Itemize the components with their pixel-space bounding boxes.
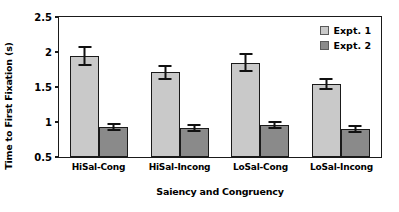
y-axis-title: Time to First Fixation (s) <box>0 0 16 212</box>
bar-slot <box>99 17 128 157</box>
error-bar-cap-bottom <box>268 127 281 129</box>
y-axis-tick: 0.5 <box>34 151 59 163</box>
bar-slot <box>260 17 289 157</box>
error-bar-cap-top <box>159 65 172 67</box>
legend-swatch-expt-1 <box>320 26 329 35</box>
error-bar-cap-top <box>78 46 91 48</box>
y-axis-tick-label: 1 <box>45 117 55 128</box>
bar-losal-cong-series-1[interactable] <box>231 63 260 158</box>
error-bar-cap-top <box>188 124 201 126</box>
y-axis-tick-label: 1.5 <box>34 82 55 93</box>
x-axis-tick-label: HiSal-Cong <box>58 162 139 172</box>
chart-legend: Expt. 1 Expt. 2 <box>320 25 372 51</box>
bar-hisal-incong-series-2[interactable] <box>180 128 209 157</box>
error-bar <box>107 123 120 131</box>
bar-group <box>220 17 301 157</box>
error-bar <box>268 121 281 129</box>
x-axis-tick-label: LoSal-Cong <box>220 162 301 172</box>
y-axis-tick: 1.5 <box>34 81 59 93</box>
y-axis-tick-label: 0.5 <box>34 152 55 163</box>
error-bar-cap-bottom <box>320 88 333 90</box>
bar-slot <box>231 17 260 157</box>
bar-slot <box>180 17 209 157</box>
y-axis-tick-label: 2 <box>45 47 55 58</box>
bar-slot <box>70 17 99 157</box>
legend-label-expt-2: Expt. 2 <box>334 40 372 51</box>
y-axis-tick: 2.5 <box>34 11 59 23</box>
bar-hisal-cong-series-1[interactable] <box>70 56 99 157</box>
error-bar-cap-top <box>320 78 333 80</box>
error-bar-cap-bottom <box>239 70 252 72</box>
x-axis-tick-labels: HiSal-CongHiSal-IncongLoSal-CongLoSal-In… <box>58 162 382 172</box>
y-axis-tick-label: 2.5 <box>34 12 55 23</box>
bar-losal-cong-series-2[interactable] <box>260 125 289 157</box>
bar-losal-incong-series-2[interactable] <box>341 129 370 157</box>
error-bar-cap-bottom <box>78 64 91 66</box>
error-bar-cap-top <box>349 125 362 127</box>
chart-figure: Time to First Fixation (s) 0.511.522.5 E… <box>0 0 399 212</box>
bar-hisal-incong-series-1[interactable] <box>151 72 180 157</box>
error-bar-cap-bottom <box>349 131 362 133</box>
x-axis-tick-label: LoSal-Incong <box>301 162 382 172</box>
x-axis-tick-label: HiSal-Incong <box>139 162 220 172</box>
error-bar <box>239 53 252 71</box>
bar-losal-incong-series-1[interactable] <box>312 84 341 157</box>
error-bar-cap-top <box>107 123 120 125</box>
legend-label-expt-1: Expt. 1 <box>334 25 372 36</box>
y-axis-tick: 2 <box>45 46 59 58</box>
y-axis-tick: 1 <box>45 116 59 128</box>
error-bar-cap-bottom <box>107 129 120 131</box>
legend-item: Expt. 2 <box>320 40 372 51</box>
error-bar-cap-bottom <box>159 78 172 80</box>
bar-hisal-cong-series-2[interactable] <box>99 127 128 157</box>
error-bar-cap-top <box>239 53 252 55</box>
error-bar <box>159 65 172 80</box>
error-bar-cap-bottom <box>188 130 201 132</box>
plot-area: 0.511.522.5 Expt. 1 Expt. 2 <box>58 16 382 158</box>
bar-slot <box>151 17 180 157</box>
error-bar-cap-top <box>268 121 281 123</box>
error-bar <box>349 125 362 133</box>
bar-group <box>59 17 140 157</box>
legend-item: Expt. 1 <box>320 25 372 36</box>
x-axis-title: Saiency and Congruency <box>58 186 382 197</box>
legend-swatch-expt-2 <box>320 41 329 50</box>
error-bar <box>320 78 333 91</box>
bar-group <box>140 17 221 157</box>
error-bar <box>188 124 201 132</box>
error-bar <box>78 46 91 66</box>
